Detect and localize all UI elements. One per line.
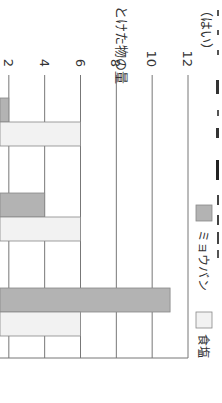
bar-salt [0,217,81,241]
bar-alum [0,193,45,217]
legend-label: 食塩 [196,334,211,358]
y-axis-unit: （はい） [199,4,214,56]
bar-alum [0,288,170,312]
y-tick-label: 12 [180,50,195,67]
y-axis-label: とけた物の量 [114,6,129,84]
bar-salt [0,312,81,336]
y-tick-labels: 24681012 [1,50,195,67]
bar-salt [0,122,81,146]
y-tick-label: 10 [144,50,159,67]
y-tick-label: 2 [1,59,16,67]
bar-chart: 24681012 （はい） とけた物の量 ミョウバン食塩 [0,0,222,403]
cut-off-title-fragments [216,10,219,258]
bars [0,98,170,336]
y-tick-label: 4 [37,59,52,67]
legend-swatch [196,312,212,328]
legend: ミョウバン食塩 [196,205,212,358]
legend-label: ミョウバン [196,230,210,291]
y-tick-label: 6 [73,59,88,67]
legend-swatch [196,205,212,221]
bar-alum [0,98,9,122]
